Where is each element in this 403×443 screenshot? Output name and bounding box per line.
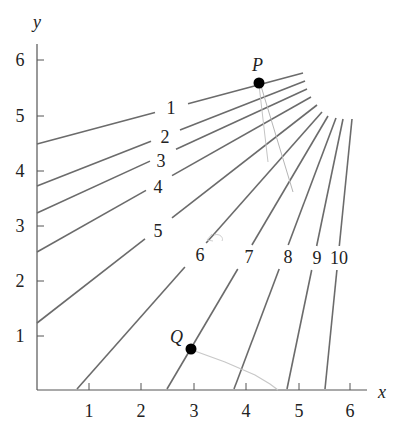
level-curve-label: 2 [161,127,170,147]
y-tick-label: 3 [16,216,25,236]
handwritten-annotations [192,85,293,390]
x-tick-label: 4 [242,401,251,421]
level-curve-label: 5 [154,221,163,241]
x-axis-label: x [377,382,386,402]
level-curve-4: 4 [37,97,311,252]
y-tick-label: 5 [16,106,25,126]
level-curve-label: 9 [313,248,322,268]
x-tick-label: 3 [190,401,199,421]
level-curve-label: 3 [157,151,166,171]
point-q [186,344,197,355]
y-tick-label: 4 [16,161,25,181]
x-tick-label: 5 [295,401,304,421]
x-tick-label: 6 [346,401,355,421]
point-p-label: P [251,55,263,75]
level-curves: 12345678910 [37,73,352,389]
x-ticks: 123456 [85,383,355,421]
annotation-stroke-q [192,350,278,390]
points: P Q [170,55,265,355]
y-tick-label: 2 [16,271,25,291]
axes: y x 123456 123456 [16,12,387,421]
point-p [254,78,265,89]
point-q-label: Q [170,327,183,347]
level-curve-5: 5 [37,105,317,323]
y-axis-label: y [31,12,41,32]
y-tick-label: 1 [16,326,25,346]
x-tick-label: 2 [137,401,146,421]
level-curve-label: 4 [154,177,163,197]
figure: y x 123456 123456 12345678910 P Q [0,0,403,443]
level-curve-label: 1 [167,98,176,118]
annotation-arrow-mark [207,234,223,241]
level-curve-10: 10 [325,119,352,389]
level-curve-label: 7 [245,247,254,267]
x-tick-label: 1 [85,401,94,421]
level-curve-label: 6 [196,245,205,265]
level-curve-label: 10 [330,248,348,268]
y-ticks: 123456 [16,50,45,346]
level-curve-label: 8 [284,247,293,267]
y-tick-label: 6 [16,50,25,70]
